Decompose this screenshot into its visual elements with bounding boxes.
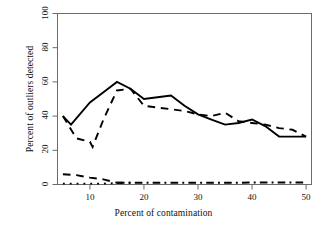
x-axis-title: Percent of contamination	[0, 208, 327, 218]
y-tick-label: 80	[40, 35, 50, 59]
y-tick-label: 100	[40, 1, 50, 25]
series-line-dashed-low	[63, 174, 131, 183]
series-line-dotted	[63, 183, 117, 184]
series-line-solid	[63, 82, 306, 137]
y-tick-label: 40	[40, 103, 50, 127]
x-tick-label: 40	[240, 192, 264, 202]
data-series-layer	[63, 82, 306, 184]
y-tick-label: 20	[40, 137, 50, 161]
y-axis-title: Percent of outliers detected	[25, 9, 35, 189]
x-tick-label: 30	[186, 192, 210, 202]
x-tick-label: 10	[78, 192, 102, 202]
x-tick-label: 50	[294, 192, 318, 202]
y-tick-label: 0	[40, 172, 50, 196]
series-line-dashed	[63, 89, 306, 147]
chart-figure: Percent of contamination Percent of outl…	[0, 0, 327, 236]
x-axis-ticks	[90, 185, 306, 190]
y-axis-ticks	[53, 14, 58, 185]
x-tick-label: 20	[132, 192, 156, 202]
y-tick-label: 60	[40, 69, 50, 93]
